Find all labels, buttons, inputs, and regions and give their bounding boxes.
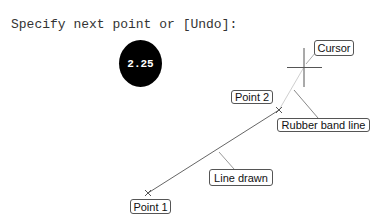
point1-x-marker-icon	[145, 190, 151, 196]
line-drawn-callout: Line drawn	[209, 169, 273, 186]
rubber-band-leader-line	[294, 90, 318, 118]
rubber-band-callout: Rubber band line	[277, 118, 370, 132]
drawing-geometry	[0, 0, 382, 222]
dynamic-input-value[interactable]: 2.25	[119, 40, 162, 87]
point2-x-marker-icon	[276, 107, 282, 113]
point1-callout: Point 1	[130, 199, 171, 214]
rubber-band-line	[279, 67, 304, 110]
point2-callout: Point 2	[231, 90, 273, 104]
line-drawn-leader-line	[219, 152, 234, 169]
cursor-callout: Cursor	[314, 40, 354, 56]
drawing-canvas[interactable]: Specify next point or [Undo]: 2.25 Curso…	[0, 0, 382, 222]
